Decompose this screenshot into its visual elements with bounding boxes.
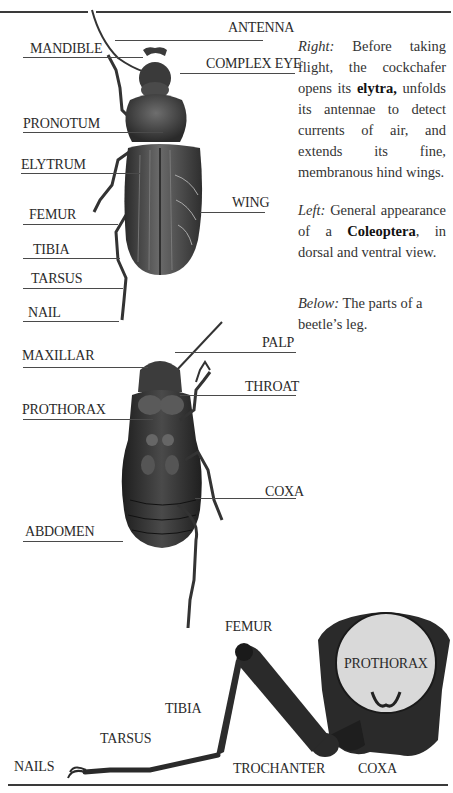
label-coxa: COXA xyxy=(265,485,304,499)
caption-left: Left: General appearance of a Coleoptera… xyxy=(298,200,446,263)
leader-maxillar xyxy=(23,367,148,368)
label-leg-coxa: COXA xyxy=(358,762,397,776)
caption-left-lead: Left: xyxy=(298,202,325,218)
leader-antenna xyxy=(115,40,263,41)
caption-right-lead: Right: xyxy=(298,38,334,54)
leader-tarsus xyxy=(23,288,123,289)
label-leg-tarsus: TARSUS xyxy=(100,732,151,746)
leader-abdomen xyxy=(23,541,123,542)
label-femur: FEMUR xyxy=(29,208,76,222)
label-maxillar: MAXILLAR xyxy=(22,349,94,363)
caption-right: Right: Before taking flight, the cockcha… xyxy=(298,36,446,183)
leader-wing xyxy=(200,212,265,213)
label-elytrum: ELYTRUM xyxy=(21,158,86,172)
leader-elytrum xyxy=(21,173,143,174)
label-throat: THROAT xyxy=(245,380,299,394)
leader-coxa xyxy=(195,498,296,499)
leader-complex-eye xyxy=(180,73,295,74)
leader-throat xyxy=(180,395,296,396)
label-nail: NAIL xyxy=(28,306,61,320)
label-tibia: TIBIA xyxy=(33,243,69,257)
label-leg-tibia: TIBIA xyxy=(165,702,201,716)
leg-detail-icon xyxy=(68,612,450,778)
leader-pronotum xyxy=(23,132,163,133)
leader-femur xyxy=(23,224,118,225)
caption-right-bold: elytra, xyxy=(357,80,397,96)
label-leg-prothorax: PROTHORAX xyxy=(344,657,428,671)
label-mandible: MANDIBLE xyxy=(30,42,102,56)
leader-palp xyxy=(175,352,296,353)
label-leg-nails: NAILS xyxy=(14,760,54,774)
label-pronotum: PRONOTUM xyxy=(23,117,100,131)
leader-tibia xyxy=(23,258,120,259)
caption-below: Below: The parts of a beetle’s leg. xyxy=(298,293,446,335)
leader-nail xyxy=(23,321,119,322)
leader-mandible xyxy=(23,57,143,58)
caption-below-lead: Below: xyxy=(298,295,339,311)
label-complex-eye: COMPLEX EYE xyxy=(206,57,301,71)
label-tarsus: TARSUS xyxy=(31,272,82,286)
caption-left-bold: Coleoptera xyxy=(347,223,415,239)
label-leg-trochanter: TROCHANTER xyxy=(233,762,325,776)
label-prothorax: PROTHORAX xyxy=(22,403,106,417)
label-wing: WING xyxy=(232,196,269,210)
label-leg-femur: FEMUR xyxy=(225,620,272,634)
leader-prothorax xyxy=(23,419,153,420)
label-palp: PALP xyxy=(262,336,294,350)
label-abdomen: ABDOMEN xyxy=(25,525,94,539)
label-antenna: ANTENNA xyxy=(228,21,294,35)
